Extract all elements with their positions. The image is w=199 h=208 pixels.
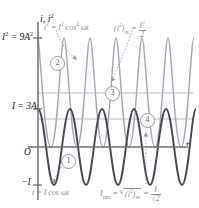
tick-label-i-max: I = 3A <box>12 102 37 112</box>
equation-rms: Irms = (i2)av = I√2 <box>100 186 161 203</box>
callout-3[interactable]: 3 <box>105 86 120 101</box>
callout-4[interactable]: 4 <box>140 113 155 128</box>
callout-1[interactable]: 1 <box>61 154 76 169</box>
x-axis-label: t <box>186 140 189 150</box>
equation-current: i = I cos ωt <box>32 189 69 197</box>
origin-label: O <box>24 148 31 158</box>
tick-label-i-min: −I <box>21 178 31 188</box>
tick-label-i-squared-max: I2 = 9A2 <box>2 31 33 43</box>
equation-current-squared: i2 = I2 cos2 ωt <box>44 22 89 32</box>
equation-mean-square: (i2)av = I22 <box>114 20 146 38</box>
callout-2[interactable]: 2 <box>50 56 65 71</box>
leader-arrow-3 <box>111 77 115 82</box>
physics-figure-ac-current: i, i2 t O I2 = 9A2 I = 3A −I i2 = I2 cos… <box>0 0 199 208</box>
leader-arrow-4 <box>144 132 149 136</box>
leader-arrow-2 <box>72 55 77 60</box>
